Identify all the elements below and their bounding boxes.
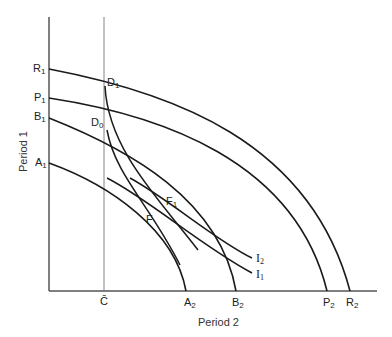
label-p2: P2 xyxy=(323,297,335,310)
label-a2: A2 xyxy=(184,297,196,310)
label-sub: 0 xyxy=(99,121,103,130)
label-d1: D1 xyxy=(107,77,119,90)
label-sub: 2 xyxy=(260,257,264,266)
curve-d1 xyxy=(105,86,198,250)
label-a1: A1 xyxy=(35,157,47,170)
label-f: F xyxy=(146,214,153,225)
label-base: R xyxy=(346,296,354,308)
label-i1: I1 xyxy=(256,268,264,282)
label-base: D xyxy=(91,116,99,128)
label-base: F xyxy=(146,213,153,225)
label-c-bar: C̄ xyxy=(100,296,108,307)
label-i2: I2 xyxy=(256,252,264,266)
label-sub: 1 xyxy=(42,161,46,170)
label-base: R xyxy=(33,62,41,74)
label-base: F xyxy=(166,195,173,207)
label-sub: 2 xyxy=(330,301,334,310)
label-f1: F1 xyxy=(166,196,177,209)
label-r1: R1 xyxy=(33,63,45,76)
label-p1: P1 xyxy=(34,92,46,105)
label-sub: 2 xyxy=(239,301,243,310)
label-sub: 1 xyxy=(173,200,177,209)
label-base: D xyxy=(107,76,115,88)
label-sub: 1 xyxy=(41,115,45,124)
label-sub: 1 xyxy=(260,273,264,282)
label-sub: 1 xyxy=(41,67,45,76)
label-sub: 2 xyxy=(191,301,195,310)
economics-diagram xyxy=(0,0,392,337)
label-b2: B2 xyxy=(232,297,244,310)
label-d0: D0 xyxy=(91,117,103,130)
y-axis-title: Period 1 xyxy=(17,131,29,172)
frontier-r xyxy=(49,69,350,291)
frontier-b xyxy=(49,118,236,291)
label-sub: 2 xyxy=(354,301,358,310)
label-b1: B1 xyxy=(34,111,46,124)
x-axis-title: Period 2 xyxy=(198,317,239,328)
label-sub: 1 xyxy=(115,81,119,90)
label-r2: R2 xyxy=(346,297,358,310)
label-sub: 1 xyxy=(41,96,45,105)
